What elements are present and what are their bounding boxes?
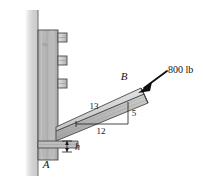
statics-diagram: 13 5 12 800 lb B A h	[0, 0, 203, 184]
wall-surface	[25, 10, 38, 176]
base-seat-group	[38, 141, 78, 148]
label-point-b: B	[121, 70, 128, 82]
post-group	[38, 30, 58, 160]
bolt-3	[58, 79, 67, 88]
label-point-a: A	[42, 158, 50, 170]
label-rise: 5	[132, 108, 137, 118]
bolt-group	[58, 33, 67, 88]
wall-group	[25, 10, 38, 176]
bolt-2	[58, 56, 67, 65]
label-h: h	[75, 141, 80, 152]
bolt-1	[58, 33, 67, 42]
post-body	[38, 30, 58, 160]
h-arrowhead-down	[65, 148, 69, 152]
label-hypotenuse: 13	[90, 101, 100, 111]
force-arrow-shaft	[144, 71, 167, 88]
force-arrow-group	[138, 71, 167, 93]
label-base: 12	[97, 126, 106, 136]
force-label: 800 lb	[168, 64, 193, 75]
figure-canvas: 13 5 12 800 lb B A h	[0, 0, 203, 184]
